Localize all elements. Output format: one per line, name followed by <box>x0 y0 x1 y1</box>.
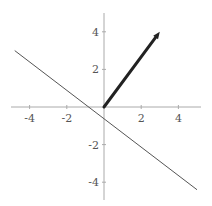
y-tick-label: -2 <box>88 139 99 152</box>
x-tick-label: 4 <box>175 112 182 125</box>
series-layer <box>15 32 197 190</box>
x-tick-label: 2 <box>138 112 145 125</box>
x-tick-label: -4 <box>24 112 35 125</box>
plot-area: -4-224-4-224 <box>0 0 212 206</box>
y-tick-label: -4 <box>88 176 99 189</box>
x-tick-label: -2 <box>61 112 72 125</box>
line-series <box>15 51 197 190</box>
y-tick-label: 4 <box>92 26 99 39</box>
vector-arrow-shaft <box>104 37 156 107</box>
y-tick-label: 2 <box>92 63 99 76</box>
